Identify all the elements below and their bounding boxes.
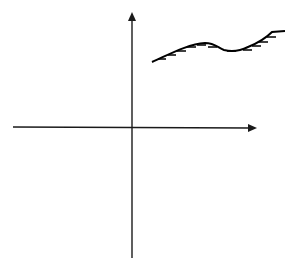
boundary-curve xyxy=(152,31,285,62)
x-axis xyxy=(13,124,257,132)
diagram-canvas xyxy=(0,0,296,270)
hatch-marks xyxy=(158,37,276,59)
y-axis-arrowhead-icon xyxy=(128,12,136,21)
hatched-curve xyxy=(152,31,285,62)
y-axis xyxy=(128,12,136,258)
x-axis-arrowhead-icon xyxy=(248,124,257,132)
